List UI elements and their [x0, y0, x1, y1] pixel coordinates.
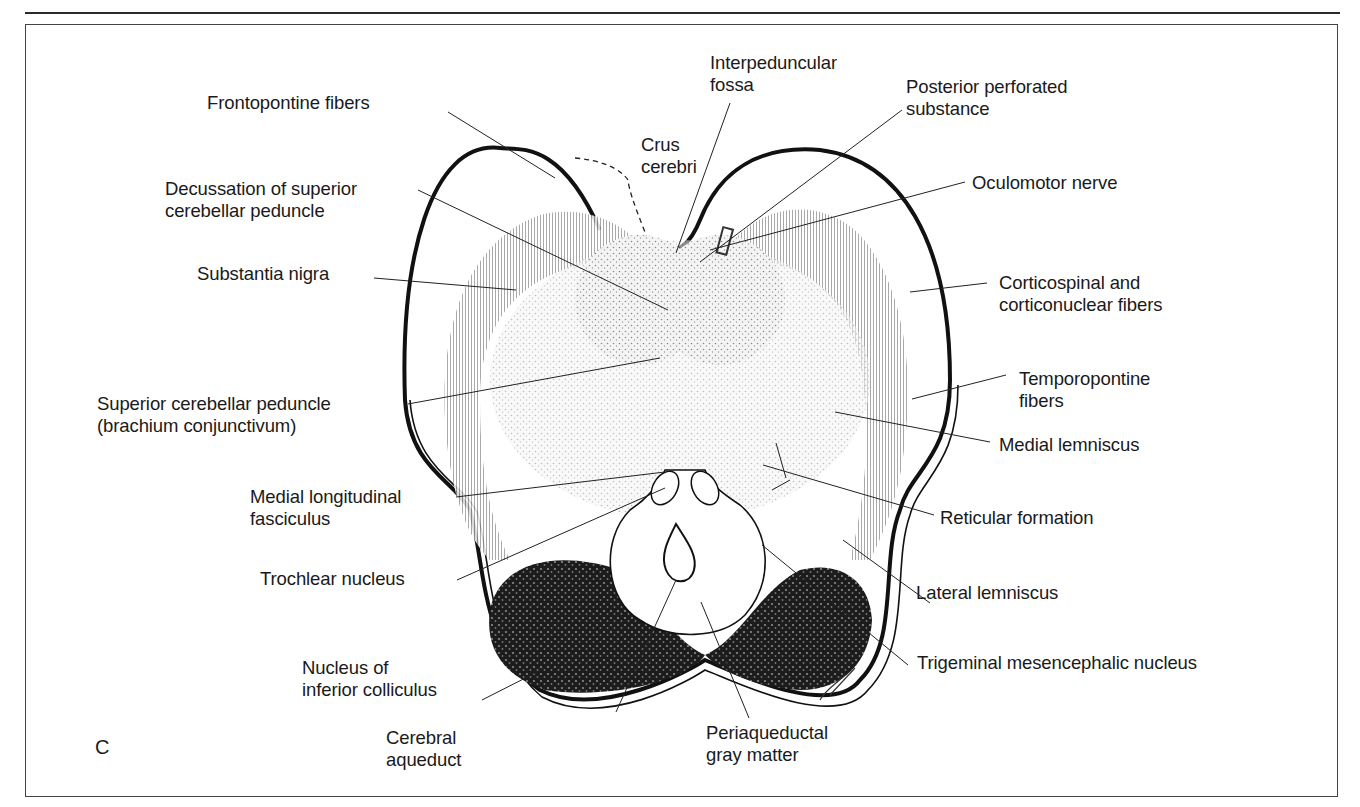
label-posterior-perforated-substance: Posterior perforated substance	[906, 76, 1068, 120]
label-oculomotor-nerve: Oculomotor nerve	[972, 172, 1117, 194]
label-interpeduncular-fossa: Interpeduncular fossa	[710, 52, 837, 96]
label-frontopontine-fibers: Frontopontine fibers	[207, 92, 370, 114]
label-cerebral-aqueduct: Cerebral aqueduct	[386, 727, 461, 771]
label-medial-longitudinal-fasciculus: Medial longitudinal fasciculus	[250, 486, 401, 530]
label-crus-cerebri: Crus cerebri	[641, 134, 697, 178]
label-temporopontine-fibers: Temporopontine fibers	[1019, 368, 1150, 412]
label-medial-lemniscus: Medial lemniscus	[999, 434, 1139, 456]
label-lateral-lemniscus: Lateral lemniscus	[916, 582, 1058, 604]
label-superior-cerebellar-peduncle: Superior cerebellar peduncle (brachium c…	[97, 393, 331, 437]
label-trochlear-nucleus: Trochlear nucleus	[260, 568, 405, 590]
label-reticular-formation: Reticular formation	[940, 507, 1093, 529]
right-sup-cerebellar-peduncle	[655, 235, 785, 365]
label-decussation-sup-cerebellar-peduncle: Decussation of superior cerebellar pedun…	[165, 178, 357, 222]
label-trigeminal-mesencephalic-nucleus: Trigeminal mesencephalic nucleus	[917, 652, 1197, 674]
label-corticospinal-corticonuclear: Corticospinal and corticonuclear fibers	[999, 272, 1162, 316]
panel-letter: C	[95, 736, 109, 759]
label-nucleus-inferior-colliculus: Nucleus of inferior colliculus	[302, 657, 437, 701]
label-periaqueductal-gray-matter: Periaqueductal gray matter	[706, 722, 828, 766]
label-substantia-nigra: Substantia nigra	[197, 263, 329, 285]
